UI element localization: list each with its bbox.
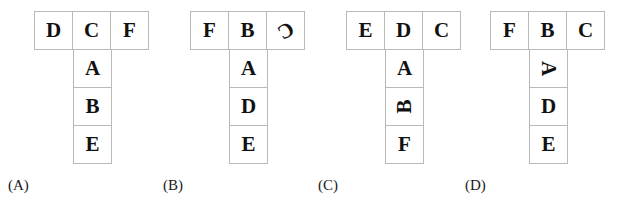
- net-stem-row: B: [386, 88, 461, 126]
- net-cell: D: [529, 87, 568, 126]
- net-cell: B: [385, 87, 424, 126]
- net-cell-letter: C: [578, 20, 593, 41]
- net-top-row: FBC: [191, 12, 305, 50]
- net-cell: E: [346, 11, 385, 50]
- net-stem-row: E: [230, 126, 305, 164]
- net-cell: A: [73, 49, 112, 88]
- net-cell: A: [229, 49, 268, 88]
- net-cell-letter: B: [85, 96, 99, 117]
- net-cell-letter: F: [203, 20, 216, 41]
- net-cell-letter: C: [434, 20, 449, 41]
- net-cell: A: [529, 49, 568, 88]
- cube-net-b: FBCADE: [191, 12, 305, 164]
- net-cell: E: [229, 125, 268, 164]
- net-cell: B: [73, 87, 112, 126]
- net-cell-letter: F: [398, 134, 411, 155]
- cube-net-d: FBCADE: [491, 12, 605, 164]
- net-cell: B: [228, 11, 267, 50]
- net-top-row: DCF: [35, 12, 149, 50]
- net-cell-letter: A: [397, 58, 412, 79]
- net-stem-row: E: [74, 126, 149, 164]
- net-cell-letter: E: [541, 134, 555, 155]
- net-cell: E: [73, 125, 112, 164]
- net-cell: C: [72, 11, 111, 50]
- net-stem-row: D: [530, 88, 605, 126]
- net-top-row: FBC: [491, 12, 605, 50]
- net-cell-letter: D: [46, 20, 61, 41]
- net-cell: C: [422, 11, 461, 50]
- net-cell-letter: A: [85, 58, 100, 79]
- net-cell: F: [190, 11, 229, 50]
- answer-options-figure: DCFABE(A)FBCADE(B)EDCABF(C)FBCADE(D): [0, 0, 625, 203]
- net-stem-row: E: [530, 126, 605, 164]
- net-cell: F: [385, 125, 424, 164]
- net-stem-row: A: [230, 50, 305, 88]
- net-cell-letter: B: [240, 20, 254, 41]
- net-cell-letter: B: [394, 99, 415, 113]
- net-stem-row: A: [74, 50, 149, 88]
- net-top-row: EDC: [347, 12, 461, 50]
- net-cell-letter: D: [541, 96, 556, 117]
- net-stem-row: A: [386, 50, 461, 88]
- net-cell: C: [266, 11, 305, 50]
- net-cell: D: [34, 11, 73, 50]
- net-cell: D: [229, 87, 268, 126]
- option-label-d: (D): [465, 177, 486, 194]
- net-cell-letter: A: [538, 61, 559, 76]
- option-label-a: (A): [8, 177, 29, 194]
- net-cell-letter: C: [274, 18, 298, 44]
- net-cell-letter: E: [241, 134, 255, 155]
- net-cell-letter: F: [123, 20, 136, 41]
- net-cell: F: [490, 11, 529, 50]
- net-stem-row: D: [230, 88, 305, 126]
- net-cell: B: [528, 11, 567, 50]
- net-cell-letter: A: [241, 58, 256, 79]
- net-stem-row: F: [386, 126, 461, 164]
- cube-net-a: DCFABE: [35, 12, 149, 164]
- net-stem-row: A: [530, 50, 605, 88]
- net-cell: C: [566, 11, 605, 50]
- net-cell: D: [384, 11, 423, 50]
- net-cell: A: [385, 49, 424, 88]
- cube-net-c: EDCABF: [347, 12, 461, 164]
- net-cell: E: [529, 125, 568, 164]
- net-cell-letter: B: [540, 20, 554, 41]
- net-cell-letter: E: [358, 20, 372, 41]
- net-cell-letter: E: [85, 134, 99, 155]
- option-label-b: (B): [163, 177, 183, 194]
- net-cell-letter: D: [396, 20, 411, 41]
- net-stem-row: B: [74, 88, 149, 126]
- net-cell-letter: C: [84, 20, 99, 41]
- net-cell-letter: F: [503, 20, 516, 41]
- net-cell-letter: D: [241, 96, 256, 117]
- net-cell: F: [110, 11, 149, 50]
- option-label-c: (C): [318, 177, 338, 194]
